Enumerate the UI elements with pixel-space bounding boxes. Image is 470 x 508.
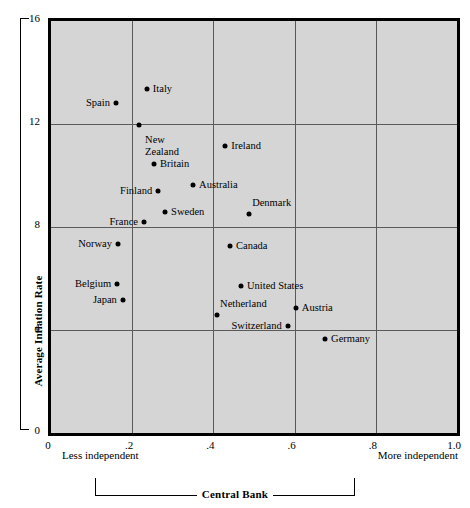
y-axis-title-wrapper: Average Inflation Rate	[24, 124, 25, 324]
x-tick-label: 0	[45, 439, 51, 451]
data-point	[115, 281, 120, 286]
data-point	[137, 123, 142, 128]
scatter-plot-area: ItalySpainNew ZealandIrelandBritainAustr…	[48, 18, 460, 436]
x-tick-label: .8	[369, 439, 377, 451]
data-point	[141, 219, 146, 224]
plot-inner-canvas: ItalySpainNew ZealandIrelandBritainAustr…	[51, 21, 457, 433]
gridline-horizontal	[51, 124, 457, 125]
x-tick-label: .6	[287, 439, 295, 451]
data-point-label: Switzerland	[232, 320, 282, 332]
data-point	[144, 87, 149, 92]
data-point	[163, 209, 168, 214]
x-axis-title-text: Central Bank	[197, 488, 273, 500]
data-point	[228, 244, 233, 249]
data-point	[152, 161, 157, 166]
data-point-label: Denmark	[252, 197, 291, 209]
data-point-label: Japan	[93, 295, 117, 307]
data-point	[239, 284, 244, 289]
data-point-label: Ireland	[231, 140, 261, 152]
data-point-label: Canada	[236, 241, 268, 253]
data-point-label: Australia	[199, 179, 238, 191]
data-point	[285, 324, 290, 329]
data-point-label: Sweden	[171, 206, 204, 218]
x-axis-right-note: More independent	[378, 449, 458, 461]
data-point	[223, 143, 228, 148]
data-point	[115, 241, 120, 246]
x-tick-label: .4	[206, 439, 214, 451]
data-point	[156, 188, 161, 193]
data-point-label: Britain	[160, 158, 189, 170]
data-point-label: Germany	[331, 333, 370, 345]
data-point-label: United States	[247, 280, 303, 292]
data-point-label: Netherland	[220, 298, 267, 310]
data-point-label: Italy	[153, 83, 172, 95]
data-point-label: Spain	[86, 98, 110, 110]
data-point-label: Norway	[78, 238, 112, 250]
data-point-label: New Zealand	[145, 134, 179, 157]
data-point	[293, 306, 298, 311]
data-point-label: France	[109, 216, 138, 228]
data-point	[247, 212, 252, 217]
data-point	[113, 101, 118, 106]
data-point-label: Austria	[302, 302, 333, 314]
data-point	[191, 182, 196, 187]
data-point-label: Finland	[120, 185, 152, 197]
data-point	[120, 298, 125, 303]
x-axis-left-note: Less independent	[62, 449, 139, 461]
y-axis-title: Average Inflation Rate	[31, 231, 45, 431]
data-point	[215, 312, 220, 317]
x-axis-title: Central Bank	[0, 488, 470, 500]
data-point-label: Belgium	[75, 278, 111, 290]
data-point	[323, 337, 328, 342]
